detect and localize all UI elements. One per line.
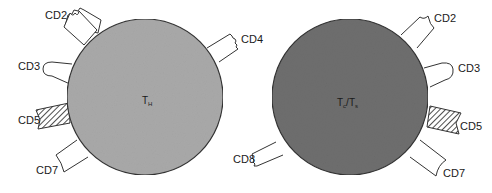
- t-cell-diagram: TH CD2 CD3 CD4 CD5 CD7 Tc/Ts CD2 CD3 CD5…: [0, 0, 492, 193]
- right-cd3-receptor: [424, 63, 453, 87]
- right-cd3-label: CD3: [458, 62, 480, 74]
- left-cd5-label: CD5: [18, 114, 40, 126]
- cytotoxic-cell-label: Tc/Ts: [337, 97, 358, 109]
- right-cd2-label: CD2: [434, 12, 456, 24]
- right-cd7-receptor: [410, 140, 446, 176]
- right-cd8-receptor: [252, 142, 283, 166]
- cytotoxic-suppressor-t-cell: Tc/Ts CD2 CD3 CD5 CD7 CD8: [233, 12, 482, 179]
- right-cd8-label: CD8: [233, 153, 255, 165]
- left-cd7-label: CD7: [36, 164, 58, 176]
- left-cd4-label: CD4: [241, 33, 263, 45]
- left-cd5-receptor: [36, 103, 70, 129]
- right-cd5-label: CD5: [460, 120, 482, 132]
- left-cd2-label: CD2: [45, 9, 67, 21]
- left-cd3-label: CD3: [18, 60, 40, 72]
- helper-t-cell: TH CD2 CD3 CD4 CD5 CD7: [18, 8, 263, 176]
- left-cd3-receptor: [43, 62, 72, 84]
- right-cd5-receptor: [427, 106, 461, 134]
- right-cd7-label: CD7: [443, 167, 465, 179]
